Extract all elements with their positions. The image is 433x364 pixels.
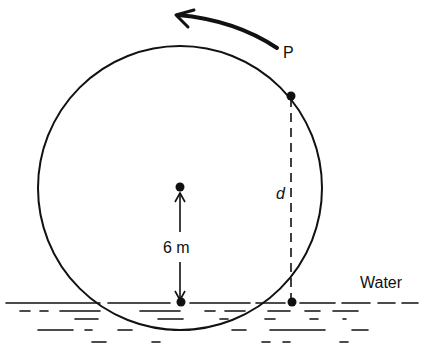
water-level-point xyxy=(177,298,186,307)
center-point xyxy=(176,183,185,192)
water-surface xyxy=(6,303,418,342)
rotation-arrow-icon xyxy=(176,10,277,48)
water-label: Water xyxy=(360,274,403,291)
radius-label: 6 m xyxy=(163,239,190,256)
distance-label: d xyxy=(276,185,286,202)
foot-point-d xyxy=(288,298,297,307)
point-label: P xyxy=(283,44,294,61)
ferris-wheel-diagram: P d 6 m Water xyxy=(0,0,433,364)
